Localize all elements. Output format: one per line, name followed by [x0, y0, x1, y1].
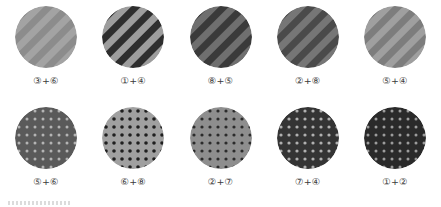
swatch-label-7: ⑥+⑧ — [120, 176, 146, 187]
swatch-circle-1[interactable] — [15, 6, 77, 68]
stripe-pattern-4 — [277, 6, 339, 68]
swatch-label-8: ②+⑦ — [208, 176, 234, 187]
swatch-cell-4[interactable]: ②+⑧ — [266, 6, 350, 86]
swatch-circle-9[interactable] — [277, 107, 339, 169]
swatch-circle-2[interactable] — [102, 6, 164, 68]
dot-pattern-9 — [277, 107, 339, 169]
footer-watermark — [8, 201, 72, 205]
pattern-swatch-sheet: ③+⑥ ①+④ — [0, 0, 441, 207]
swatch-circle-7[interactable] — [102, 107, 164, 169]
swatch-circle-3[interactable] — [190, 6, 252, 68]
swatch-label-2: ①+④ — [120, 75, 146, 86]
dot-pattern-10 — [364, 107, 426, 169]
swatch-cell-7[interactable]: ⑥+⑧ — [91, 107, 175, 187]
swatch-cell-8[interactable]: ②+⑦ — [179, 107, 263, 187]
swatch-label-1: ③+⑥ — [33, 75, 59, 86]
stripe-pattern-1 — [15, 6, 77, 68]
swatch-cell-9[interactable]: ⑦+④ — [266, 107, 350, 187]
stripe-pattern-2 — [102, 6, 164, 68]
swatch-label-4: ②+⑧ — [295, 75, 321, 86]
swatch-cell-2[interactable]: ①+④ — [91, 6, 175, 86]
swatch-circle-6[interactable] — [15, 107, 77, 169]
swatch-label-10: ①+② — [382, 176, 408, 187]
swatch-circle-5[interactable] — [364, 6, 426, 68]
swatch-cell-10[interactable]: ①+② — [353, 107, 437, 187]
dot-pattern-7 — [102, 107, 164, 169]
swatch-circle-10[interactable] — [364, 107, 426, 169]
swatch-row-top: ③+⑥ ①+④ — [0, 0, 441, 103]
dot-pattern-6 — [15, 107, 77, 169]
stripe-pattern-3 — [190, 6, 252, 68]
swatch-cell-5[interactable]: ⑤+④ — [353, 6, 437, 86]
stripe-pattern-5 — [364, 6, 426, 68]
swatch-cell-6[interactable]: ⑤+⑥ — [4, 107, 88, 187]
dot-pattern-8 — [190, 107, 252, 169]
swatch-cell-3[interactable]: ⑧+⑤ — [179, 6, 263, 86]
swatch-circle-8[interactable] — [190, 107, 252, 169]
swatch-cell-1[interactable]: ③+⑥ — [4, 6, 88, 86]
swatch-label-9: ⑦+④ — [295, 176, 321, 187]
swatch-label-6: ⑤+⑥ — [33, 176, 59, 187]
swatch-label-5: ⑤+④ — [382, 75, 408, 86]
swatch-label-3: ⑧+⑤ — [208, 75, 234, 86]
swatch-row-bottom: ⑤+⑥ ⑥+⑧ — [0, 103, 441, 206]
swatch-circle-4[interactable] — [277, 6, 339, 68]
